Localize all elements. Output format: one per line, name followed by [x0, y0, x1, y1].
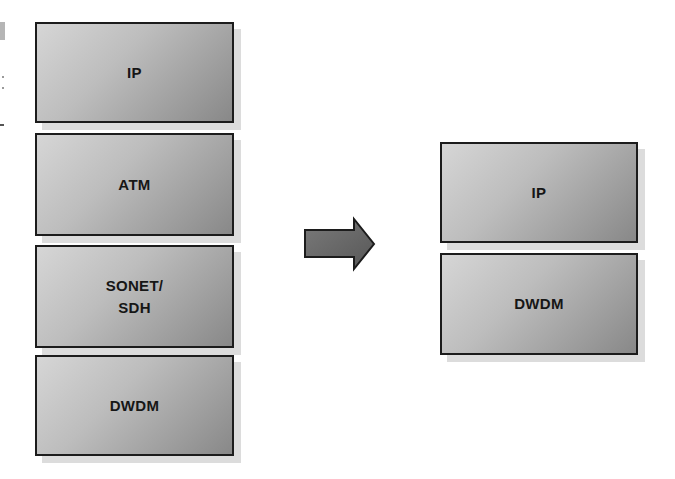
right-layer-dwdm: DWDM — [440, 253, 638, 355]
scan-artifact-speck — [2, 76, 4, 78]
scan-artifact-speck — [2, 87, 4, 89]
scan-artifact-bar — [0, 22, 5, 40]
layer-label: ATM — [118, 174, 150, 196]
layer-label: SONET/ SDH — [106, 275, 164, 319]
left-layer-atm: ATM — [35, 133, 234, 236]
right-layer-ip: IP — [440, 142, 638, 243]
layer-label: IP — [532, 182, 547, 204]
layer-label: DWDM — [110, 395, 160, 417]
left-layer-dwdm: DWDM — [35, 355, 234, 456]
right-arrow-icon — [303, 216, 377, 272]
left-layer-sonet-sdh: SONET/ SDH — [35, 245, 234, 348]
layer-label: IP — [127, 62, 142, 84]
scan-artifact-dash — [0, 124, 4, 126]
left-layer-ip: IP — [35, 22, 234, 123]
layer-label: DWDM — [514, 293, 564, 315]
